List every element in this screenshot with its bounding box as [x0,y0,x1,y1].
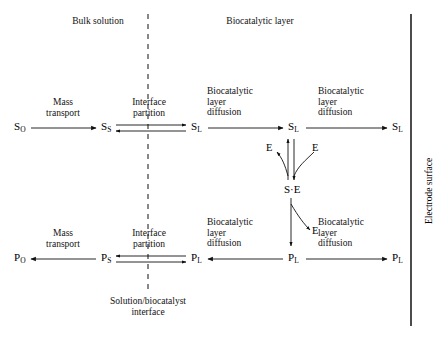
arrow-enzyme-release [277,152,288,176]
biocatalytic-transport-diagram: Bulk solution Biocatalytic layer Electro… [0,0,437,339]
arrow-enzyme-product-release [291,204,310,230]
diagram-strokes [0,0,437,339]
arrow-enzyme-binding [294,152,314,176]
